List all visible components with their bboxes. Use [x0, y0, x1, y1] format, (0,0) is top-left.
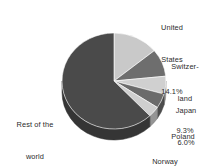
- pie-chart-figure: United States 14.1% Switzer- land 9.3% J…: [0, 0, 217, 166]
- slice-label-line: United: [141, 23, 203, 34]
- slice-label-norway: Norway 3.6%: [136, 136, 194, 166]
- slice-label-rest-of-world: Rest of the world 62.1%: [4, 99, 66, 166]
- slice-label-line: Norway: [136, 157, 194, 166]
- slice-label-line: Rest of the: [4, 120, 66, 131]
- slice-label-line: world: [4, 152, 66, 163]
- slice-label-line: Switzer-: [155, 62, 215, 73]
